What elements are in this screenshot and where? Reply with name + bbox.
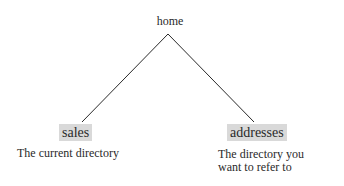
caption-sales: The current directory — [17, 147, 119, 160]
edge-home-sales — [82, 34, 168, 122]
caption-addresses: The directory you want to refer to — [218, 148, 304, 174]
caption-addresses-line-2: want to refer to — [218, 161, 304, 174]
node-addresses: addresses — [227, 124, 287, 141]
node-home: home — [150, 14, 190, 29]
edge-home-addresses — [168, 34, 254, 122]
node-sales: sales — [59, 124, 92, 141]
